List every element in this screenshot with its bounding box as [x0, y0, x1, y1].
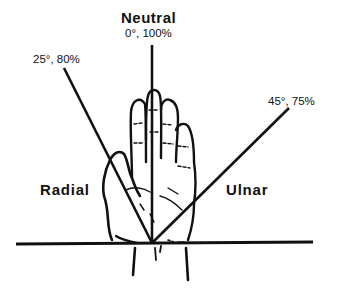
middle-finger-outline [146, 90, 161, 158]
wrist-right [186, 248, 188, 280]
thumb-outline [103, 152, 140, 240]
hand-illustration [103, 90, 195, 280]
wrist-mark [155, 246, 161, 260]
palm-ulnar-edge [188, 204, 194, 240]
radial-angle-label: 25°, 80% [33, 54, 80, 66]
neutral-angle-label: 0°, 100% [125, 28, 172, 40]
wrist-deviation-diagram: Neutral 0°, 100% 25°, 80% 45°, 75% Radia… [0, 0, 337, 292]
ulnar-angle-label: 45°, 75% [268, 96, 315, 108]
neutral-title: Neutral [121, 10, 176, 25]
ulnar-region-label: Ulnar [226, 182, 268, 197]
palm-creases [126, 188, 182, 222]
wrist-left [133, 248, 135, 275]
little-finger-outline [176, 124, 196, 204]
ulnar-line [152, 108, 289, 243]
index-finger-outline [131, 100, 146, 178]
radial-region-label: Radial [40, 182, 90, 197]
diagram-canvas [0, 0, 337, 292]
reference-lines [16, 45, 313, 244]
baseline [16, 242, 313, 244]
